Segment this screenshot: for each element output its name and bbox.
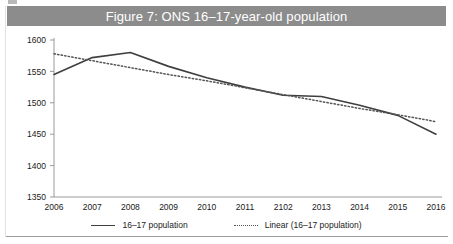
y-axis-tick-label: 1400 (27, 161, 46, 171)
x-axis-tick-label: 2015 (388, 202, 407, 212)
x-axis-tick-label: 2006 (45, 202, 64, 212)
x-axis-tick-label: 2102 (274, 202, 293, 212)
line-chart: 1600155015001450140013502006200720082009… (0, 26, 453, 216)
chart-plot-area: 1600155015001450140013502006200720082009… (0, 26, 453, 216)
figure-container: Figure 7: ONS 16–17-year-old population … (0, 0, 453, 244)
legend-label-population: 16–17 population (122, 220, 187, 230)
figure-left-divider (5, 6, 6, 237)
x-axis-tick-label: 2008 (121, 202, 140, 212)
legend-item-linear-trend: Linear (16–17 population) (234, 220, 362, 230)
figure-title-bar: Figure 7: ONS 16–17-year-old population (7, 6, 446, 26)
top-edge-marker (8, 0, 17, 4)
y-axis-tick-label: 1600 (27, 35, 46, 45)
x-axis-tick-label: 2013 (312, 202, 331, 212)
y-axis-tick-label: 1550 (27, 67, 46, 77)
chart-legend: 16–17 population Linear (16–17 populatio… (0, 216, 453, 234)
legend-swatch-dotted-icon (234, 225, 258, 226)
x-axis-tick-label: 2009 (159, 202, 178, 212)
x-axis-tick-label: 2010 (197, 202, 216, 212)
y-axis-tick-label: 1350 (27, 192, 46, 202)
legend-label-linear-trend: Linear (16–17 population) (265, 220, 362, 230)
legend-swatch-solid-icon (91, 225, 115, 226)
y-axis-tick-label: 1450 (27, 129, 46, 139)
series-line-linear-trend (54, 54, 436, 122)
x-axis-tick-label: 2011 (236, 202, 255, 212)
y-axis-tick-label: 1500 (27, 98, 46, 108)
x-axis-tick-label: 2016 (427, 202, 446, 212)
x-axis-tick-label: 2014 (350, 202, 369, 212)
legend-item-population: 16–17 population (91, 220, 187, 230)
x-axis-tick-label: 2007 (83, 202, 102, 212)
figure-bottom-divider (5, 236, 448, 237)
page-title: Figure 7: ONS 16–17-year-old population (106, 9, 348, 24)
